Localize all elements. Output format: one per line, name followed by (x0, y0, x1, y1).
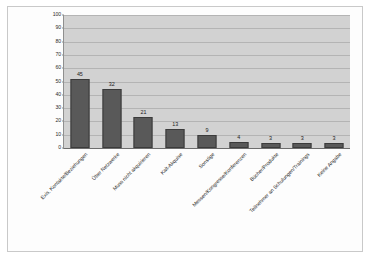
bar-value-label: 45 (77, 72, 83, 77)
bar-value-label: 9 (205, 128, 208, 133)
bar-value-label: 32 (109, 82, 115, 87)
bar-chart: 01020304050607080901004532211394333 Exis… (8, 7, 364, 253)
bar-value-label: 3 (269, 136, 272, 141)
bar-value-label: 21 (140, 110, 146, 115)
bar[interactable] (70, 79, 89, 148)
bar-value-label: 13 (172, 122, 178, 127)
bar[interactable] (166, 129, 185, 148)
bar-slot: 3 (255, 15, 287, 148)
y-axis-tick-label: 100 (53, 12, 61, 17)
bar[interactable] (293, 143, 312, 148)
y-axis-tick-label: 40 (56, 92, 61, 97)
bar-slot: 3 (318, 15, 350, 148)
y-axis-tick-label: 70 (56, 52, 61, 57)
x-axis-category-label: Kalt-Akquise (160, 152, 184, 176)
x-axis-category-label: Über Netzwerke (91, 152, 120, 181)
bar[interactable] (325, 143, 344, 148)
x-axis-category-label: Muss nicht akquirieren (113, 152, 153, 192)
y-axis-tick-label: 10 (56, 132, 61, 137)
y-axis-tick-label: 0 (58, 145, 61, 150)
y-axis-tick-label: 30 (56, 106, 61, 111)
bar[interactable] (102, 89, 121, 148)
bar-slot: 3 (286, 15, 318, 148)
x-axis-category-label: Teilnehmer an Schulungen/Trainings (249, 152, 311, 214)
bar-slot: 45 (64, 15, 96, 148)
x-axis-category-label: Bücher/Produkte (249, 152, 279, 182)
bar-slot: 9 (191, 15, 223, 148)
x-axis-category-labels: Exis. Kontakte/BeziehungenÜber Netzwerke… (63, 149, 349, 249)
bar-value-label: 4 (237, 135, 240, 140)
x-axis-category-label: Sonstige (198, 152, 216, 170)
y-axis-tick-label: 90 (56, 26, 61, 31)
bar[interactable] (197, 135, 216, 148)
y-axis-tick-label: 60 (56, 66, 61, 71)
x-axis-category-label: Keine Angabe (317, 152, 343, 178)
figure-frame: 01020304050607080901004532211394333 Exis… (7, 6, 363, 252)
x-axis-category-label: Exis. Kontakte/Beziehungen (40, 152, 89, 201)
bar-value-label: 3 (333, 136, 336, 141)
bar-value-label: 3 (301, 136, 304, 141)
bar[interactable] (229, 142, 248, 148)
bar-slot: 21 (128, 15, 160, 148)
y-axis-tick-label: 20 (56, 119, 61, 124)
y-axis-tick-label: 80 (56, 39, 61, 44)
bar[interactable] (134, 117, 153, 148)
bar-slot: 13 (159, 15, 191, 148)
bar[interactable] (261, 143, 280, 148)
plot-area: 01020304050607080901004532211394333 (63, 15, 350, 149)
x-axis-category-label: Messen/Kongresse/Konferenzen (192, 152, 248, 208)
bar-slot: 4 (223, 15, 255, 148)
y-axis-tick-label: 50 (56, 79, 61, 84)
bar-slot: 32 (96, 15, 128, 148)
